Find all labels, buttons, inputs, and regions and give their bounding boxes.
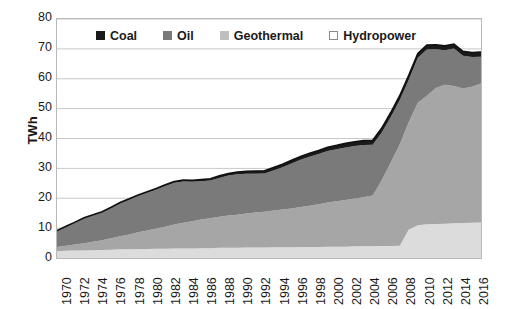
x-axis-tick-label: 1982 [170, 277, 183, 305]
legend-label: Geothermal [234, 29, 303, 43]
plot-svg [57, 19, 481, 258]
x-axis-tick-label: 1974 [97, 277, 110, 305]
legend-swatch-icon [96, 31, 105, 40]
chart-legend: CoalOilGeothermalHydropower [96, 27, 416, 44]
plot-area [56, 18, 482, 259]
legend-label: Coal [110, 29, 137, 43]
legend-swatch-icon [329, 31, 338, 40]
legend-label: Oil [177, 29, 194, 43]
y-axis-tick-label: 70 [8, 41, 52, 54]
legend-swatch-icon [220, 31, 229, 40]
legend-item[interactable]: Hydropower [329, 29, 416, 43]
x-axis-tick-label: 2012 [442, 277, 455, 305]
y-axis-tick-label: 30 [8, 161, 52, 174]
x-axis-tick-label: 2010 [424, 277, 437, 305]
x-axis-tick-label: 1980 [152, 277, 165, 305]
y-axis-tick-label: 0 [8, 251, 52, 264]
x-axis-tick-label: 2008 [405, 277, 418, 305]
x-axis-tick-label: 1988 [224, 277, 237, 305]
legend-swatch-icon [163, 31, 172, 40]
x-axis-tick-label: 2014 [460, 277, 473, 305]
x-axis-tick-label: 1998 [315, 277, 328, 305]
y-axis-tick-label: 60 [8, 71, 52, 84]
stacked-area-chart: TWh 80706050403020100 CoalOilGeothermalH… [0, 0, 507, 309]
legend-item[interactable]: Oil [163, 29, 194, 43]
legend-item[interactable]: Geothermal [220, 29, 303, 43]
y-axis-tick-label: 10 [8, 221, 52, 234]
x-axis-tick-label: 2002 [351, 277, 364, 305]
x-axis-tick-label: 1996 [297, 277, 310, 305]
legend-item[interactable]: Coal [96, 29, 137, 43]
y-axis-tick-label: 50 [8, 101, 52, 114]
x-axis-tick-label: 1986 [206, 277, 219, 305]
x-axis-tick-label: 1994 [279, 277, 292, 305]
y-axis-tick-labels: 80706050403020100 [0, 0, 52, 309]
y-axis-tick-label: 80 [8, 11, 52, 24]
x-axis-tick-label: 2000 [333, 277, 346, 305]
x-axis-tick-label: 2006 [387, 277, 400, 305]
x-axis-tick-label: 2004 [369, 277, 382, 305]
x-axis-tick-labels: 1970197219741976197819801982198419861988… [56, 261, 482, 309]
x-axis-tick-label: 1972 [79, 277, 92, 305]
x-axis-tick-label: 2016 [478, 277, 491, 305]
x-axis-tick-label: 1992 [260, 277, 273, 305]
x-axis-tick-label: 1978 [134, 277, 147, 305]
x-axis-tick-label: 1976 [115, 277, 128, 305]
x-axis-tick-label: 1970 [61, 277, 74, 305]
y-axis-tick-label: 40 [8, 131, 52, 144]
legend-label: Hydropower [343, 29, 416, 43]
y-axis-tick-label: 20 [8, 191, 52, 204]
x-axis-tick-label: 1990 [242, 277, 255, 305]
x-axis-tick-label: 1984 [188, 277, 201, 305]
